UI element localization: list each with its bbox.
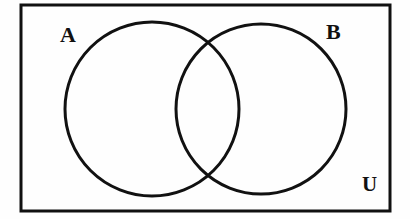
set-b-label: B [326, 21, 341, 43]
set-a-circle [65, 22, 239, 196]
set-a-label: A [60, 24, 76, 46]
set-b-circle [176, 24, 346, 194]
universal-set-label: U [362, 174, 377, 195]
venn-diagram-figure: A B U [0, 0, 410, 219]
